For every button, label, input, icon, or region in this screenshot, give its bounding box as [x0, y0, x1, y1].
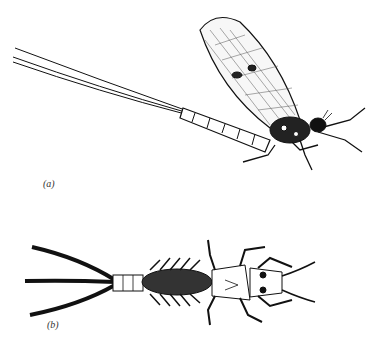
adult-mayfly	[13, 18, 365, 171]
mayfly-nymph	[25, 240, 315, 325]
panel-b-label: (b)	[47, 319, 59, 330]
panel-a-label: (a)	[43, 178, 55, 189]
mayfly-adult-illustration	[0, 0, 382, 355]
